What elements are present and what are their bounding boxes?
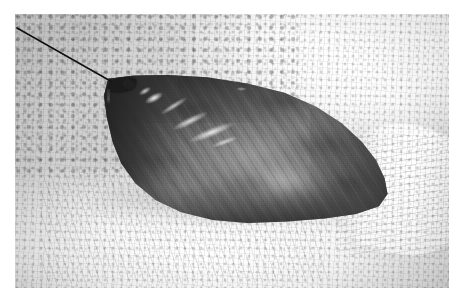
- figure-root: Grayscale intraoperative photograph of a…: [0, 0, 463, 302]
- suture-tail: [107, 89, 109, 104]
- clinical-photograph: [15, 14, 449, 288]
- specular-highlight: [236, 87, 247, 92]
